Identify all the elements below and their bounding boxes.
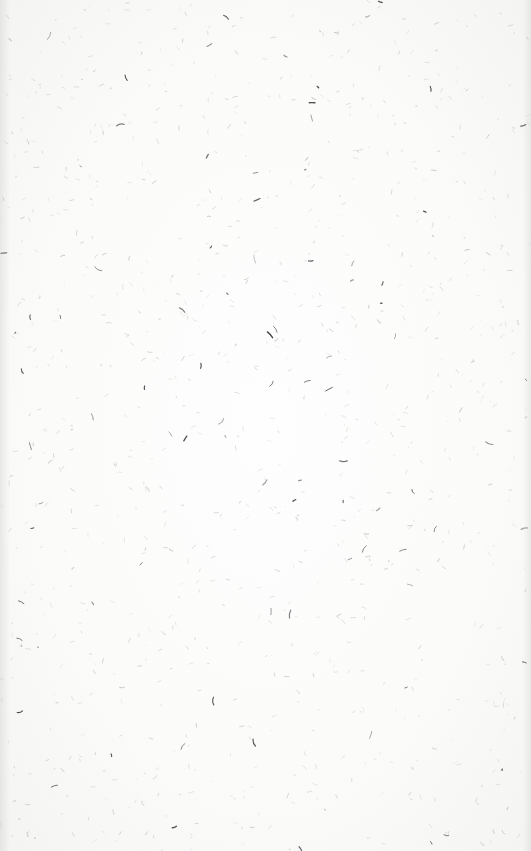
faint-fiber-speck xyxy=(299,561,302,562)
faint-fiber-speck xyxy=(27,96,28,97)
faint-fiber-speck xyxy=(476,798,477,802)
faint-fiber-speck xyxy=(318,306,322,307)
faint-fiber-speck xyxy=(482,96,483,97)
dark-fiber-speck xyxy=(60,315,61,318)
dark-fiber-speck xyxy=(91,414,93,420)
faint-fiber-speck xyxy=(392,115,394,116)
faint-fiber-speck xyxy=(172,276,173,278)
faint-fiber-speck xyxy=(369,559,370,561)
faint-fiber-speck xyxy=(166,815,167,817)
faint-fiber-speck xyxy=(297,690,300,693)
dark-fiber-speck xyxy=(254,199,260,202)
faint-fiber-speck xyxy=(525,417,527,418)
faint-fiber-speck xyxy=(313,652,316,655)
faint-fiber-speck xyxy=(388,245,390,247)
faint-fiber-speck xyxy=(53,321,56,322)
faint-fiber-speck xyxy=(406,618,411,620)
faint-fiber-speck xyxy=(90,198,92,199)
faint-fiber-speck xyxy=(269,825,271,829)
faint-fiber-speck xyxy=(242,844,244,845)
faint-fiber-speck xyxy=(302,492,304,493)
faint-fiber-speck xyxy=(191,426,195,429)
dark-fiber-speck xyxy=(309,261,313,262)
faint-fiber-speck xyxy=(120,687,125,688)
faint-fiber-speck xyxy=(348,391,349,393)
faint-fiber-speck xyxy=(509,469,510,470)
faint-fiber-speck xyxy=(432,748,436,749)
faint-fiber-speck xyxy=(105,394,108,397)
faint-fiber-speck xyxy=(504,698,505,701)
faint-fiber-speck xyxy=(196,580,200,583)
faint-fiber-speck xyxy=(420,795,421,800)
dark-fiber-speck xyxy=(521,125,526,127)
faint-fiber-speck xyxy=(145,548,146,551)
dark-fiber-speck xyxy=(267,332,272,338)
dark-fiber-speck xyxy=(523,662,527,663)
faint-fiber-speck xyxy=(399,548,401,549)
faint-fiber-speck xyxy=(432,170,437,171)
faint-fiber-speck xyxy=(123,114,126,116)
faint-fiber-speck xyxy=(39,296,40,299)
faint-fiber-speck xyxy=(350,106,351,108)
faint-fiber-speck xyxy=(309,162,310,165)
dark-fiber-speck xyxy=(37,647,38,648)
dark-fiber-speck xyxy=(486,442,493,445)
faint-fiber-speck xyxy=(518,321,519,325)
faint-fiber-speck xyxy=(33,210,34,213)
faint-fiber-speck xyxy=(293,775,296,776)
faint-fiber-speck xyxy=(459,419,460,422)
faint-fiber-speck xyxy=(11,623,12,624)
faint-fiber-speck xyxy=(451,385,452,387)
faint-fiber-speck xyxy=(329,659,331,662)
faint-fiber-speck xyxy=(269,620,272,623)
faint-fiber-speck xyxy=(517,834,519,838)
faint-fiber-speck xyxy=(12,132,13,134)
faint-fiber-speck xyxy=(15,176,16,178)
faint-fiber-speck xyxy=(527,121,529,125)
faint-fiber-speck xyxy=(377,320,380,323)
faint-fiber-speck xyxy=(12,836,13,837)
faint-fiber-speck xyxy=(96,181,98,182)
faint-fiber-speck xyxy=(245,517,249,520)
faint-fiber-speck xyxy=(299,340,300,342)
faint-fiber-speck xyxy=(340,195,341,196)
faint-fiber-speck xyxy=(284,610,286,612)
faint-fiber-speck xyxy=(495,170,496,175)
faint-fiber-speck xyxy=(40,598,42,600)
dark-fiber-speck xyxy=(370,731,372,738)
dark-fiber-speck xyxy=(201,363,202,368)
faint-fiber-speck xyxy=(58,213,59,215)
faint-fiber-speck xyxy=(244,278,248,280)
faint-fiber-speck xyxy=(189,379,190,380)
faint-fiber-speck xyxy=(429,286,432,287)
faint-fiber-speck xyxy=(248,726,251,728)
faint-fiber-speck xyxy=(398,51,400,54)
faint-fiber-speck xyxy=(224,354,228,357)
faint-fiber-speck xyxy=(54,768,56,769)
faint-fiber-speck xyxy=(527,37,529,40)
faint-fiber-speck xyxy=(438,559,440,562)
faint-fiber-speck xyxy=(188,559,189,563)
faint-fiber-speck xyxy=(266,656,267,657)
faint-fiber-speck xyxy=(225,99,228,100)
faint-fiber-speck xyxy=(233,111,237,113)
faint-fiber-speck xyxy=(279,465,281,466)
faint-fiber-speck xyxy=(61,255,65,256)
faint-fiber-speck xyxy=(460,125,461,129)
faint-fiber-speck xyxy=(478,392,479,393)
faint-fiber-speck xyxy=(169,615,172,618)
faint-fiber-speck xyxy=(506,703,509,705)
faint-fiber-speck xyxy=(316,765,317,769)
faint-fiber-speck xyxy=(51,603,52,607)
faint-fiber-speck xyxy=(411,50,414,53)
faint-fiber-speck xyxy=(32,321,33,325)
faint-fiber-speck xyxy=(71,97,74,98)
faint-fiber-speck xyxy=(245,155,246,156)
faint-fiber-speck xyxy=(117,472,122,473)
faint-fiber-speck xyxy=(270,596,274,597)
faint-fiber-speck xyxy=(480,624,483,628)
faint-fiber-speck xyxy=(72,833,74,836)
faint-fiber-speck xyxy=(64,210,69,211)
faint-fiber-speck xyxy=(90,131,91,134)
faint-fiber-speck xyxy=(291,802,294,803)
